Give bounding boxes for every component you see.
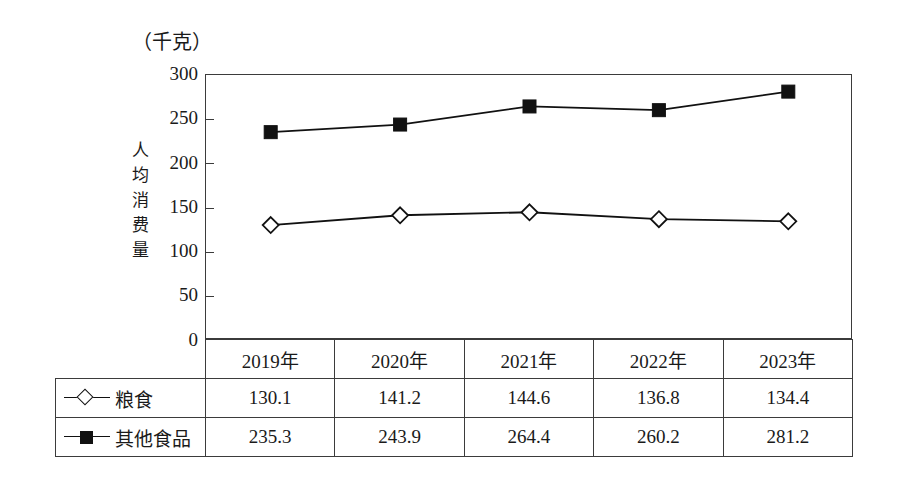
table-cell-value: 141.2 xyxy=(335,379,464,418)
table-cell-value: 235.3 xyxy=(206,418,335,457)
legend-row-other-food: 其他食品 xyxy=(56,418,206,457)
table-header-year: 2020年 xyxy=(335,340,464,379)
table-cell-value: 281.2 xyxy=(723,418,852,457)
table-cell-value: 260.2 xyxy=(594,418,723,457)
data-point-filled-square xyxy=(652,104,665,117)
table-cell-value: 243.9 xyxy=(335,418,464,457)
data-table: 2019年 2020年 2021年 2022年 2023年 粮食 130.1 1… xyxy=(55,339,853,457)
y-axis-title-char: 人 xyxy=(129,138,151,163)
table-cell-value: 136.8 xyxy=(594,379,723,418)
y-axis-title-char: 消 xyxy=(129,188,151,213)
table-header-year: 2022年 xyxy=(594,340,723,379)
table-header-year: 2019年 xyxy=(206,340,335,379)
table-cell-value: 144.6 xyxy=(464,379,593,418)
series-grain xyxy=(263,204,797,233)
data-point-open-diamond xyxy=(522,204,538,220)
y-tick-label-50: 50 xyxy=(150,285,198,304)
table-header-year: 2021年 xyxy=(464,340,593,379)
table-cell-value: 134.4 xyxy=(723,379,852,418)
data-point-filled-square xyxy=(264,126,277,139)
data-point-open-diamond xyxy=(263,217,279,233)
data-point-filled-square xyxy=(782,85,795,98)
y-tick-label-200: 200 xyxy=(150,153,198,172)
data-point-filled-square xyxy=(523,100,536,113)
table-cell-value: 264.4 xyxy=(464,418,593,457)
y-tick-label-250: 250 xyxy=(150,108,198,127)
open-diamond-marker-icon xyxy=(64,390,110,406)
table-row-grain: 粮食 130.1 141.2 144.6 136.8 134.4 xyxy=(56,379,853,418)
table-cell-value: 130.1 xyxy=(206,379,335,418)
data-point-open-diamond xyxy=(651,211,667,227)
data-point-filled-square xyxy=(394,118,407,131)
y-tick-label-150: 150 xyxy=(150,197,198,216)
filled-square-marker-icon xyxy=(64,429,110,445)
data-point-open-diamond xyxy=(392,207,408,223)
plot-area xyxy=(205,74,852,339)
unit-label: （千克） xyxy=(132,26,212,55)
table-row-years: 2019年 2020年 2021年 2022年 2023年 xyxy=(56,340,853,379)
legend-label-other-food: 其他食品 xyxy=(115,429,191,450)
table-row-other-food: 其他食品 235.3 243.9 264.4 260.2 281.2 xyxy=(56,418,853,457)
y-tick-label-300: 300 xyxy=(150,64,198,83)
chart-page: （千克） 人 均 消 费 量 300 250 200 150 100 50 0 … xyxy=(0,0,898,485)
data-point-open-diamond xyxy=(780,213,796,229)
y-axis-title-char: 费 xyxy=(129,213,151,238)
y-axis-title-char: 均 xyxy=(129,163,151,188)
y-tick-label-100: 100 xyxy=(150,241,198,260)
series-plot xyxy=(206,75,853,340)
legend-label-grain: 粮食 xyxy=(115,390,153,411)
y-axis-title: 人 均 消 费 量 xyxy=(129,138,151,263)
legend-row-grain: 粮食 xyxy=(56,379,206,418)
table-corner-cell xyxy=(56,340,206,379)
table-header-year: 2023年 xyxy=(723,340,852,379)
y-axis-title-char: 量 xyxy=(129,238,151,263)
series-other-food xyxy=(264,85,795,139)
